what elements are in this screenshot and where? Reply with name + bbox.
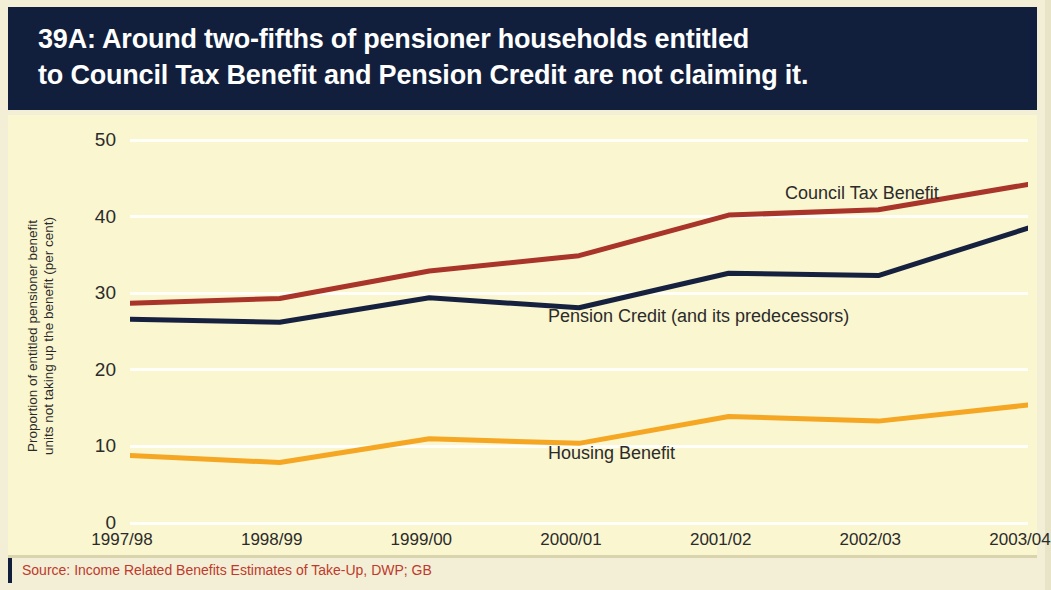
bottom-rule xyxy=(8,555,1037,558)
x-axis-tick-label: 2003/04 xyxy=(989,530,1050,550)
x-axis-tick-label: 1998/99 xyxy=(241,530,302,550)
y-axis-title: Proportion of entitled pensioner benefit… xyxy=(25,146,57,526)
chart-title-line-2: to Council Tax Benefit and Pension Credi… xyxy=(38,57,1011,93)
x-axis-ticks: 1997/981998/991999/002000/012001/022002/… xyxy=(122,530,1020,556)
x-axis-tick-label: 1999/00 xyxy=(391,530,452,550)
series-label-housing-benefit: Housing Benefit xyxy=(548,443,675,464)
y-axis-title-line-2: units not taking up the benefit (per cen… xyxy=(41,146,57,526)
plot-panel: Proportion of entitled pensioner benefit… xyxy=(8,115,1037,555)
x-axis-tick-label: 2001/02 xyxy=(690,530,751,550)
series-label-pension-credit: Pension Credit (and its predecessors) xyxy=(548,306,849,327)
y-axis-title-line-1: Proportion of entitled pensioner benefit xyxy=(25,146,41,526)
chart-title-line-1: 39A: Around two-fifths of pensioner hous… xyxy=(38,21,1011,57)
series-label-council-tax-benefit: Council Tax Benefit xyxy=(785,183,939,204)
y-axis-tick-label: 40 xyxy=(95,206,116,228)
source-note: Source: Income Related Benefits Estimate… xyxy=(22,562,432,578)
x-axis-tick-label: 2000/01 xyxy=(540,530,601,550)
y-axis-tick-label: 10 xyxy=(95,435,116,457)
x-axis-tick-label: 1997/98 xyxy=(91,530,152,550)
y-axis-tick-label: 50 xyxy=(95,129,116,151)
x-axis-tick-label: 2002/03 xyxy=(840,530,901,550)
y-axis-tick-label: 20 xyxy=(95,359,116,381)
y-axis-tick-label: 30 xyxy=(95,282,116,304)
chart-title-banner: 39A: Around two-fifths of pensioner hous… xyxy=(8,7,1037,110)
